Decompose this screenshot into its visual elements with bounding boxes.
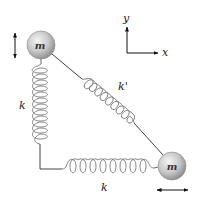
spring-vertical-k <box>32 59 62 169</box>
mass-top-label: m <box>35 41 46 51</box>
spring-vertical-label: k <box>19 100 26 111</box>
axis-x-label: x <box>162 47 168 58</box>
spring-diagonal-label: k' <box>118 81 128 92</box>
spring-horizontal-label: k <box>101 182 108 193</box>
spring-mass-diagram <box>0 0 203 204</box>
axis-y-label: y <box>123 13 129 24</box>
coordinate-axes <box>127 27 158 53</box>
spring-horizontal-k <box>62 159 158 173</box>
spring-diagonal-k-prime <box>52 54 163 155</box>
mass-bottom-label: m <box>167 162 178 172</box>
